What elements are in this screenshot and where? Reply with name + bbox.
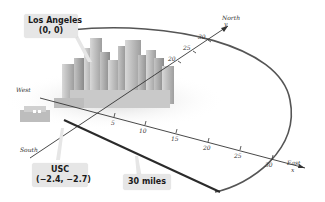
- radius-label: 30 miles: [128, 177, 166, 187]
- x-variable-label: x: [291, 166, 294, 173]
- east-label: East: [287, 159, 300, 166]
- x-tick-20: 20: [203, 144, 211, 151]
- y-tick-25: 25: [183, 44, 191, 51]
- west-label: West: [16, 86, 31, 93]
- usc-building-illustration: [20, 106, 50, 122]
- usc-name: USC: [36, 165, 84, 175]
- origin-callout: Los Angeles (0, 0): [24, 14, 78, 38]
- usc-callout-pointer: [56, 128, 64, 160]
- usc-callout: USC (−2.4, −2.7): [32, 163, 88, 187]
- x-tick-5: 5: [111, 119, 115, 126]
- origin-name: Los Angeles: [28, 16, 74, 26]
- coordinate-diagram: Los Angeles (0, 0) USC (−2.4, −2.7) 30 m…: [0, 0, 325, 202]
- x-tick-15: 15: [171, 135, 179, 142]
- x-tick-25: 25: [234, 152, 242, 159]
- x-tick-10: 10: [139, 127, 147, 134]
- city-buildings-illustration: [54, 38, 174, 108]
- south-label: South: [20, 146, 38, 153]
- y-tick-30: 30: [198, 33, 206, 40]
- radius-callout: 30 miles: [123, 174, 171, 190]
- y-variable-label: y: [224, 20, 227, 27]
- x-tick-30: 30: [265, 161, 273, 168]
- y-tick-20: 20: [168, 55, 176, 62]
- usc-coords: (−2.4, −2.7): [36, 175, 84, 185]
- origin-coords: (0, 0): [28, 26, 74, 36]
